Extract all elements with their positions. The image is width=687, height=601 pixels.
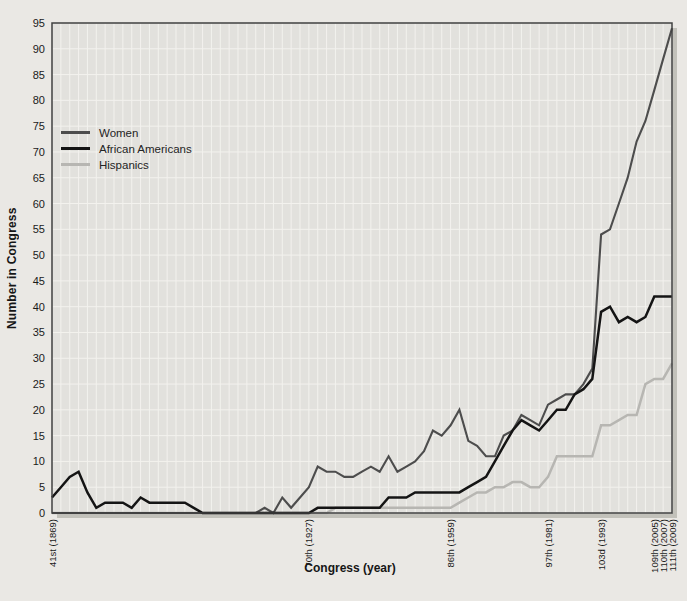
- y-tick-label: 15: [33, 430, 45, 442]
- y-tick-label: 90: [33, 43, 45, 55]
- y-tick-label: 60: [33, 198, 45, 210]
- legend-item-women: Women: [61, 126, 192, 139]
- y-tick-label: 95: [33, 17, 45, 29]
- y-tick-label: 55: [33, 223, 45, 235]
- y-tick-label: 75: [33, 120, 45, 132]
- y-tick-label: 50: [33, 249, 45, 261]
- y-tick-label: 25: [33, 378, 45, 390]
- y-tick-label: 40: [33, 301, 45, 313]
- x-axis-title: Congress (year): [30, 561, 670, 575]
- congress-representation-figure: 0510152025303540455055606570758085909541…: [0, 0, 687, 601]
- y-tick-label: 65: [33, 172, 45, 184]
- congress-line-chart: 0510152025303540455055606570758085909541…: [0, 0, 687, 601]
- legend-item-hispanics: Hispanics: [61, 158, 192, 171]
- y-tick-label: 45: [33, 275, 45, 287]
- legend-label-african-americans: African Americans: [99, 143, 192, 155]
- african-americans-line-swatch: [61, 147, 90, 150]
- y-tick-label: 35: [33, 326, 45, 338]
- y-tick-label: 80: [33, 94, 45, 106]
- y-tick-label: 5: [39, 481, 45, 493]
- x-tick-label: 41st (1869): [47, 519, 58, 567]
- legend-item-african-americans: African Americans: [61, 142, 192, 155]
- y-axis-title: Number in Congress: [4, 128, 20, 408]
- y-tick-label: 30: [33, 352, 45, 364]
- legend: Women African Americans Hispanics: [61, 126, 192, 171]
- y-tick-label: 0: [39, 507, 45, 519]
- legend-label-hispanics: Hispanics: [99, 159, 149, 171]
- y-tick-label: 10: [33, 455, 45, 467]
- y-tick-label: 70: [33, 146, 45, 158]
- y-tick-label: 85: [33, 69, 45, 81]
- women-line-swatch: [61, 131, 90, 134]
- hispanics-line-swatch: [61, 163, 90, 166]
- y-tick-label: 20: [33, 404, 45, 416]
- legend-label-women: Women: [99, 127, 138, 139]
